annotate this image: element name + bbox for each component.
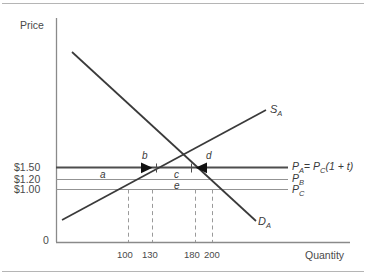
supply-curve-label: SA (270, 104, 282, 118)
supply-curve-label-sub: A (277, 109, 282, 118)
y-tick-label-100: $1.00 (14, 184, 40, 195)
demand-curve-label-sub: A (266, 221, 271, 230)
price-line-label-PC-sub: C (299, 189, 304, 198)
x-axis-title: Quantity (305, 250, 344, 261)
region-label-c: c (174, 170, 179, 180)
region-label-b: b (142, 151, 148, 161)
x-tick-label-130: 130 (142, 250, 158, 260)
price-line-label-PA-base: P (292, 160, 299, 172)
price-line-label-PC-base: P (292, 183, 299, 195)
y-tick-label-150: $1.50 (14, 162, 40, 173)
demand-curve (72, 52, 256, 221)
demand-curve-label: DA (258, 216, 271, 230)
origin-label: 0 (43, 235, 49, 246)
region-label-e: e (174, 181, 180, 191)
price-line-label-PA-equals: = (304, 160, 313, 172)
price-line-label-PA-eqtail: (1 + t) (326, 160, 354, 172)
region-label-d: d (206, 151, 212, 161)
chart-canvas (0, 0, 366, 274)
tax-incidence-chart: Price Quantity 0 $1.50 $1.20 $1.00 100 1… (0, 0, 366, 274)
supply-curve (62, 110, 266, 220)
y-axis-title: Price (20, 20, 44, 31)
x-tick-label-200: 200 (204, 250, 220, 260)
x-tick-label-180: 180 (184, 250, 200, 260)
demand-curve-label-base: D (258, 215, 266, 227)
price-line-label-PC: PC (292, 184, 304, 198)
x-tick-label-100: 100 (117, 250, 133, 260)
region-label-a: a (100, 170, 106, 180)
